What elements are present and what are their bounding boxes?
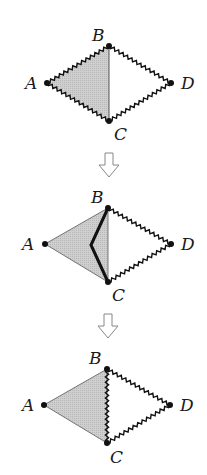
label-c: C <box>112 285 125 305</box>
panel-3: A B C D <box>20 348 194 467</box>
label-a: A <box>23 73 37 93</box>
shaded-triangle-abc <box>45 208 108 282</box>
label-d: D <box>180 234 195 254</box>
vertex-c <box>104 440 110 446</box>
vertex-d <box>168 241 174 247</box>
vertex-b <box>106 43 112 49</box>
edge-cd-wavy <box>108 244 171 282</box>
edge-bd-wavy <box>108 208 171 244</box>
panel-2: A B C D <box>20 187 195 305</box>
edge-bd-wavy <box>109 46 171 83</box>
label-c: C <box>110 447 123 467</box>
vertex-c <box>105 279 111 285</box>
panel-1: A B C D <box>23 25 195 144</box>
label-a: A <box>20 234 34 254</box>
down-arrow-icon <box>98 314 118 338</box>
label-b: B <box>91 25 105 45</box>
edge-cd-wavy <box>107 405 170 443</box>
vertex-a <box>42 241 48 247</box>
label-b: B <box>88 348 102 368</box>
vertex-d <box>168 80 174 86</box>
label-b: B <box>90 187 104 207</box>
label-d: D <box>179 395 194 415</box>
diagram-canvas: A B C D A B C D A B C D <box>0 0 207 475</box>
vertex-b <box>105 205 111 211</box>
vertex-b <box>104 366 110 372</box>
shaded-triangle-abc <box>44 369 107 443</box>
shaded-triangle-abc <box>47 46 109 121</box>
label-c: C <box>114 124 127 144</box>
vertex-c <box>106 118 112 124</box>
vertex-a <box>41 402 47 408</box>
vertex-d <box>167 402 173 408</box>
vertex-a <box>44 80 50 86</box>
label-d: D <box>180 73 195 93</box>
down-arrow-icon <box>99 153 119 177</box>
edge-cd-wavy <box>109 83 171 121</box>
edge-bd-wavy <box>107 369 170 405</box>
label-a: A <box>20 395 34 415</box>
